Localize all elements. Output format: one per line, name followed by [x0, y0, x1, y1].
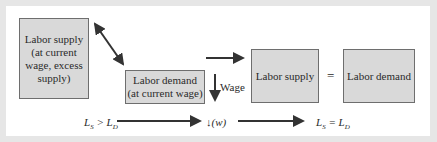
double-arrow	[95, 24, 123, 64]
arrows-layer	[0, 0, 437, 142]
